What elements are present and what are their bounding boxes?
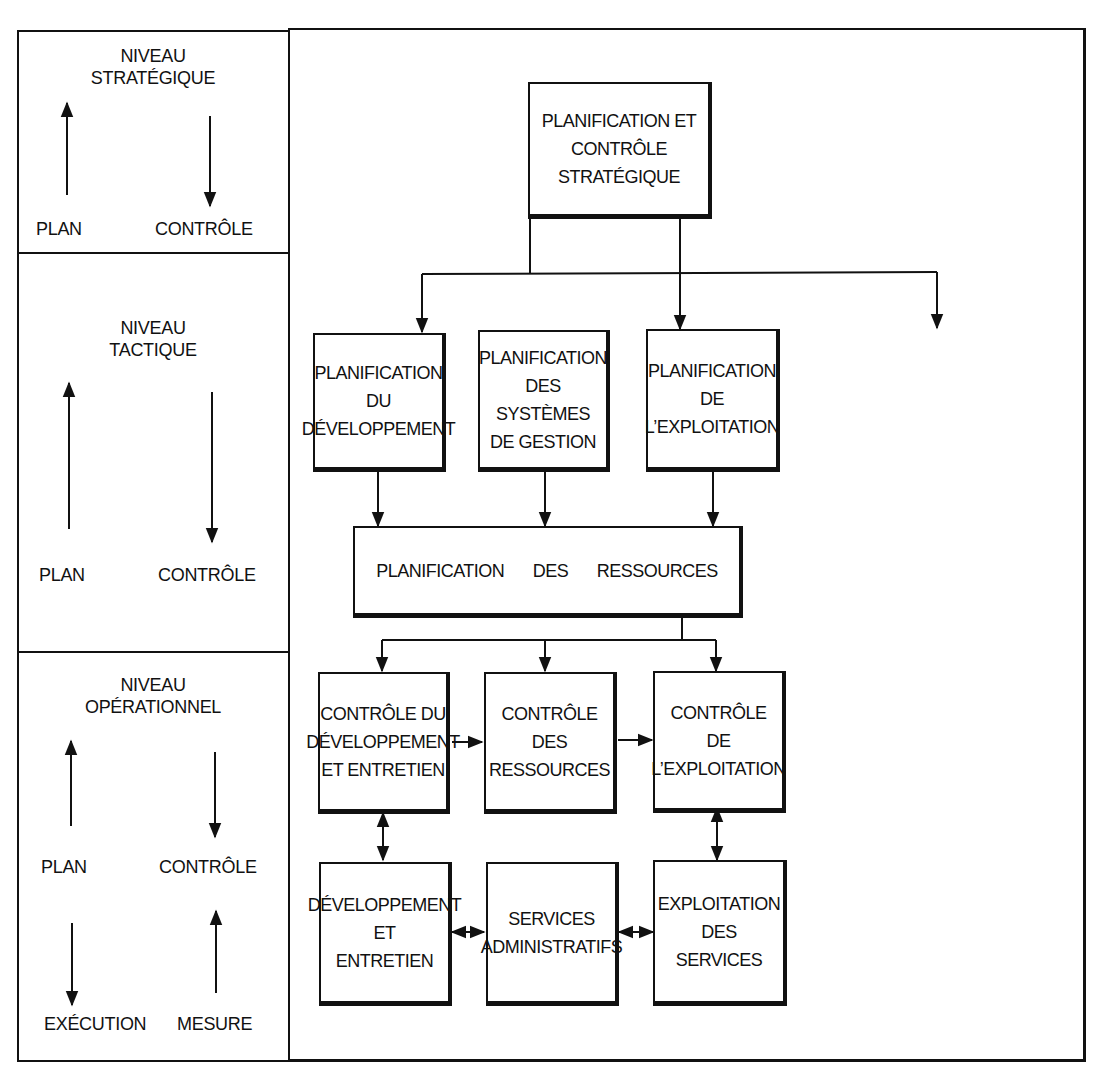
plan-label: PLAN bbox=[41, 856, 87, 878]
level-tactique: NIVEAU TACTIQUE PLAN CONTRÔLE bbox=[17, 253, 289, 651]
level-strategique: NIVEAU STRATÉGIQUE PLAN CONTRÔLE bbox=[17, 30, 289, 252]
plan-label: PLAN bbox=[36, 218, 82, 240]
box-label: CONTRÔLE DU DÉVELOPPEMENT ET ENTRETIEN bbox=[306, 700, 460, 784]
box-management-systems-planning: PLANIFICATION DES SYSTÈMES DE GESTION bbox=[478, 330, 610, 472]
box-label: EXPLOITATION DES SERVICES bbox=[658, 890, 780, 974]
controle-label: CONTRÔLE bbox=[158, 564, 256, 586]
controle-label: CONTRÔLE bbox=[155, 218, 253, 240]
box-development-control: CONTRÔLE DU DÉVELOPPEMENT ET ENTRETIEN bbox=[318, 672, 450, 814]
box-label: CONTRÔLE DES RESSOURCES bbox=[489, 700, 610, 784]
controle-label: CONTRÔLE bbox=[159, 856, 257, 878]
box-service-operations: EXPLOITATION DES SERVICES bbox=[653, 860, 787, 1006]
level-title: NIVEAU TACTIQUE bbox=[17, 317, 289, 361]
box-label: PLANIFICATION DES RESSOURCES bbox=[376, 557, 718, 585]
box-operations-planning: PLANIFICATION DE L’EXPLOITATION bbox=[646, 329, 780, 472]
box-label: PLANIFICATION ET CONTRÔLE STRATÉGIQUE bbox=[542, 107, 697, 191]
level-operationnel: NIVEAU OPÉRATIONNEL PLAN CONTRÔLE EXÉCUT… bbox=[17, 652, 289, 1062]
box-administrative-services: SERVICES ADMINISTRATIFS bbox=[486, 862, 619, 1006]
level-title: NIVEAU OPÉRATIONNEL bbox=[17, 674, 289, 718]
execution-label: EXÉCUTION bbox=[44, 1013, 146, 1035]
level-title: NIVEAU STRATÉGIQUE bbox=[17, 45, 289, 89]
box-label: PLANIFICATION DE L’EXPLOITATION bbox=[645, 357, 779, 441]
box-label: DÉVELOPPEMENT ET ENTRETIEN bbox=[308, 891, 462, 975]
mesure-label: MESURE bbox=[177, 1013, 252, 1035]
box-resource-control: CONTRÔLE DES RESSOURCES bbox=[484, 672, 617, 814]
box-label: SERVICES ADMINISTRATIFS bbox=[481, 905, 623, 961]
box-label: CONTRÔLE DE L’EXPLOITATION bbox=[651, 699, 785, 783]
box-strategic-planning-control: PLANIFICATION ET CONTRÔLE STRATÉGIQUE bbox=[528, 82, 712, 219]
box-label: PLANIFICATION DES SYSTÈMES DE GESTION bbox=[479, 344, 607, 456]
box-resource-planning: PLANIFICATION DES RESSOURCES bbox=[353, 526, 743, 618]
box-label: PLANIFICATION DU DÉVELOPPEMENT bbox=[302, 359, 456, 443]
box-development-planning: PLANIFICATION DU DÉVELOPPEMENT bbox=[313, 333, 446, 472]
plan-label: PLAN bbox=[39, 564, 85, 586]
box-operations-control: CONTRÔLE DE L’EXPLOITATION bbox=[653, 671, 786, 813]
box-development-maintenance: DÉVELOPPEMENT ET ENTRETIEN bbox=[319, 862, 452, 1006]
